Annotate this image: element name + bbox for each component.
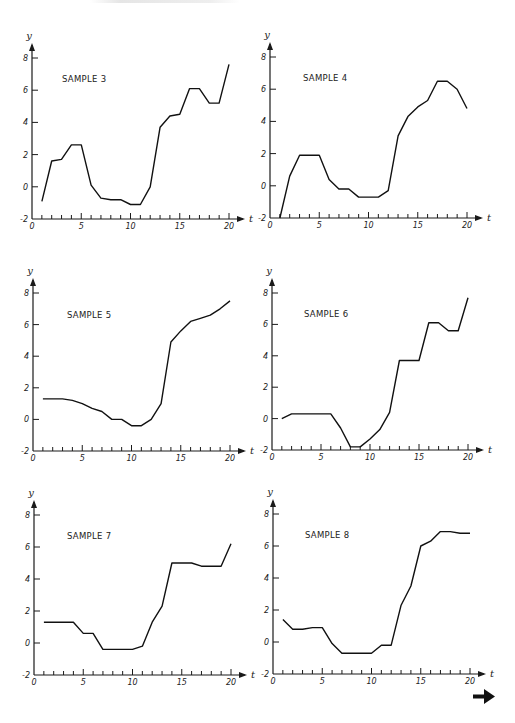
y-tick-label: 6	[264, 542, 269, 551]
x-axis-arrow-icon	[476, 447, 484, 453]
x-tick-label: 10	[125, 222, 135, 231]
y-tick-label: 4	[25, 575, 30, 584]
y-tick-label: 4	[23, 118, 28, 127]
y-axis-arrow-icon	[31, 500, 37, 508]
x-tick-label: 10	[127, 678, 137, 687]
y-tick-label: 8	[24, 289, 29, 298]
y-tick-label: 2	[263, 383, 268, 392]
series-line	[44, 544, 231, 650]
y-tick-label: 6	[261, 85, 266, 94]
y-axis-arrow-icon	[269, 278, 275, 286]
panel-title: SAMPLE 6	[304, 309, 348, 319]
x-axis-label: t	[487, 212, 492, 223]
y-tick-label: -2	[21, 447, 29, 456]
y-tick-label: 6	[263, 320, 268, 329]
y-tick-label: 8	[23, 54, 28, 63]
x-tick-label: 5	[80, 454, 85, 463]
right-arrow-icon	[473, 689, 495, 704]
y-tick-label: 4	[263, 352, 268, 361]
x-tick-label: 10	[366, 677, 376, 686]
y-tick-label: 2	[24, 384, 29, 393]
y-axis-arrow-icon	[270, 499, 276, 507]
y-tick-label: 8	[263, 289, 268, 298]
x-tick-label: 0	[29, 222, 34, 231]
y-tick-label: 4	[264, 574, 269, 583]
y-axis-label: y	[26, 265, 33, 276]
x-axis-arrow-icon	[475, 215, 483, 221]
x-tick-label: 20	[225, 454, 235, 463]
x-tick-label: 20	[465, 677, 475, 686]
y-tick-label: -2	[261, 670, 269, 679]
x-tick-label: 5	[317, 221, 322, 230]
y-axis-label: y	[27, 487, 34, 498]
chart-panel-6: yt05101520-202468SAMPLE 8	[261, 486, 495, 686]
x-tick-label: 5	[81, 678, 86, 687]
x-tick-label: 15	[176, 454, 186, 463]
y-tick-label: 0	[263, 415, 268, 424]
x-tick-label: 15	[177, 678, 187, 687]
panel-title: SAMPLE 8	[305, 530, 349, 540]
y-tick-label: -2	[260, 446, 268, 455]
y-tick-label: 4	[24, 352, 29, 361]
y-axis-arrow-icon	[267, 42, 273, 50]
x-tick-label: 10	[126, 454, 136, 463]
x-tick-label: 0	[267, 221, 272, 230]
y-tick-label: 8	[264, 510, 269, 519]
x-axis-label: t	[488, 444, 493, 455]
x-tick-label: 0	[270, 677, 275, 686]
x-axis-arrow-icon	[478, 671, 486, 677]
x-tick-label: 10	[365, 453, 375, 462]
y-tick-label: 8	[25, 511, 30, 520]
x-axis-arrow-icon	[239, 672, 247, 678]
y-tick-label: 0	[261, 182, 266, 191]
y-axis-arrow-icon	[30, 278, 36, 286]
x-axis-label: t	[251, 669, 256, 680]
series-line	[283, 532, 470, 654]
x-tick-label: 20	[463, 453, 473, 462]
chart-panel-5: yt05101520-202468SAMPLE 7	[22, 487, 256, 687]
chart-panel-4: yt05101520-202468SAMPLE 6	[260, 265, 493, 462]
x-tick-label: 15	[416, 677, 426, 686]
x-axis-label: t	[249, 213, 254, 224]
y-axis-label: y	[265, 265, 272, 276]
panel-title: SAMPLE 4	[303, 73, 347, 83]
y-axis-label: y	[263, 29, 270, 40]
chart-panel-1: yt05101520-202468SAMPLE 3	[20, 30, 254, 231]
y-axis-arrow-icon	[29, 43, 35, 51]
x-tick-label: 15	[414, 453, 424, 462]
chart-panel-3: yt05101520-202468SAMPLE 5	[21, 265, 255, 463]
x-tick-label: 5	[79, 222, 84, 231]
y-tick-label: -2	[258, 214, 266, 223]
y-tick-label: 0	[25, 639, 30, 648]
y-tick-label: 2	[23, 151, 28, 160]
x-tick-label: 0	[30, 454, 35, 463]
panel-title: SAMPLE 5	[67, 310, 111, 320]
y-tick-label: 6	[25, 543, 30, 552]
x-tick-label: 10	[363, 221, 373, 230]
y-tick-label: 0	[24, 415, 29, 424]
y-tick-label: -2	[20, 215, 28, 224]
x-axis-label: t	[490, 668, 495, 679]
x-tick-label: 15	[175, 222, 185, 231]
panel-title: SAMPLE 7	[67, 531, 111, 541]
y-axis-label: y	[266, 486, 273, 497]
y-tick-label: 2	[25, 607, 30, 616]
chart-panel-2: yt05101520-202468SAMPLE 4	[258, 29, 492, 230]
sample-plots-figure: yt05101520-202468SAMPLE 3yt05101520-2024…	[0, 0, 515, 723]
y-tick-label: 2	[261, 150, 266, 159]
x-axis-arrow-icon	[238, 448, 246, 454]
y-tick-label: 4	[261, 117, 266, 126]
y-tick-label: 6	[24, 321, 29, 330]
x-tick-label: 0	[269, 453, 274, 462]
series-line	[282, 298, 468, 447]
y-tick-label: 0	[264, 638, 269, 647]
x-tick-label: 5	[318, 453, 323, 462]
x-tick-label: 15	[413, 221, 423, 230]
y-tick-label: 6	[23, 86, 28, 95]
y-tick-label: 2	[264, 606, 269, 615]
x-axis-arrow-icon	[237, 216, 245, 222]
series-line	[42, 64, 229, 204]
x-tick-label: 20	[224, 222, 234, 231]
x-tick-label: 20	[226, 678, 236, 687]
y-tick-label: 0	[23, 183, 28, 192]
